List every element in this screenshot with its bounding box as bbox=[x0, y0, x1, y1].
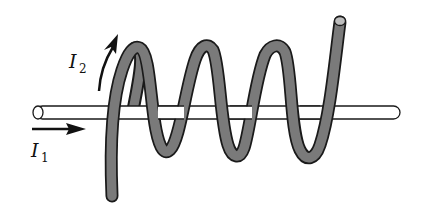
svg-text:1: 1 bbox=[41, 151, 49, 165]
svg-text:2: 2 bbox=[79, 62, 87, 76]
arrow-i1-icon bbox=[32, 123, 86, 135]
svg-text:I: I bbox=[68, 50, 77, 72]
label-i1: I 1 bbox=[30, 139, 49, 165]
wire-end-cap bbox=[33, 106, 43, 119]
label-i2: I 2 bbox=[68, 50, 87, 76]
coil-end-cap bbox=[335, 17, 346, 26]
svg-text:I: I bbox=[30, 139, 39, 161]
diagram-canvas: I 1 I 2 bbox=[0, 0, 429, 215]
